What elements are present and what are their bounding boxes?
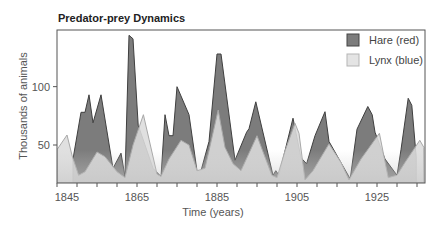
x-axis: 18451865188519051925 (55, 183, 417, 203)
y-tick-label: 50 (38, 139, 50, 151)
legend-swatch-hare (347, 34, 359, 46)
legend-swatch-lynx (347, 54, 359, 66)
base-band (57, 150, 425, 183)
x-tick-label: 1845 (55, 191, 79, 203)
y-axis-label: Thousands of animals (17, 52, 29, 160)
x-tick-label: 1905 (285, 191, 309, 203)
x-tick-label: 1865 (125, 191, 149, 203)
chart-title: Predator-prey Dynamics (58, 12, 185, 24)
x-tick-label: 1925 (365, 191, 389, 203)
y-tick-label: 100 (32, 81, 50, 93)
plot-area (57, 30, 425, 183)
legend-label-hare: Hare (red) (369, 34, 419, 46)
x-tick-label: 1885 (205, 191, 229, 203)
legend-label-lynx: Lynx (blue) (369, 54, 423, 66)
predator-prey-chart: Predator-prey Dynamics 50100 18451865188… (0, 0, 443, 229)
x-axis-label: Time (years) (182, 206, 243, 218)
y-axis: 50100 (32, 81, 57, 151)
